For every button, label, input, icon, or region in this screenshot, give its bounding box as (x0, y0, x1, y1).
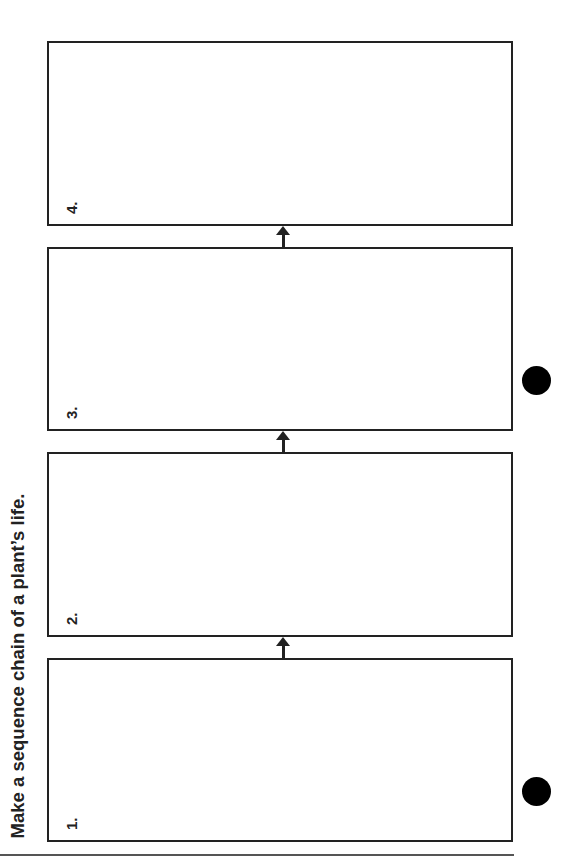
box-number: 3. (63, 406, 80, 419)
sequence-box-3[interactable]: 3. (47, 247, 513, 431)
arrow-up-icon (276, 226, 290, 247)
sequence-box-1[interactable]: 1. (47, 658, 513, 842)
box-number: 2. (63, 612, 80, 625)
arrow-up-icon (276, 637, 290, 658)
arrow-up-icon (276, 431, 290, 452)
hole-punch-dot (522, 366, 551, 395)
hole-punch-dot (522, 777, 551, 806)
page-divider (0, 854, 514, 856)
box-number: 4. (63, 201, 80, 214)
page-title: Make a sequence chain of a plant’s life. (7, 494, 29, 839)
sequence-box-4[interactable]: 4. (47, 41, 513, 226)
sequence-box-2[interactable]: 2. (47, 452, 513, 637)
box-number: 1. (63, 817, 80, 830)
